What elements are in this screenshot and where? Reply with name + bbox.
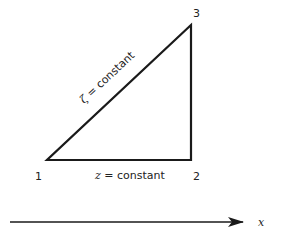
vertex-label-3: 3: [193, 7, 200, 20]
base-label-text: = constant: [101, 169, 166, 182]
hypotenuse-label-text: = constant: [82, 48, 138, 102]
vertex-label-2: 2: [193, 170, 200, 183]
hypotenuse-label: ζ = constant: [77, 48, 138, 106]
vertex-label-1: 1: [35, 170, 42, 183]
x-axis-label: x: [258, 216, 265, 229]
triangle: [47, 25, 191, 160]
triangle-diagram: 1 2 3 ζ = constant z = constant x: [0, 0, 283, 240]
svg-text:ζ = constant: ζ = constant: [77, 48, 138, 106]
base-label: z = constant: [94, 169, 166, 182]
